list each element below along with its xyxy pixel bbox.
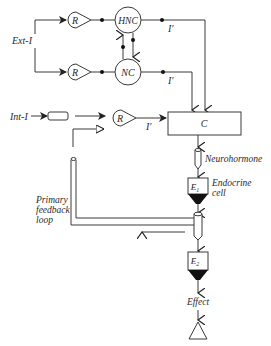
endocrine-label-1: Endocrine (211, 178, 252, 188)
feedback-pipe-end (71, 158, 76, 161)
nc-label: NC (120, 67, 135, 78)
i-prime-bottom-label: I′ (167, 75, 174, 86)
receptor-bottom-label: R (71, 67, 78, 78)
endocrine-label-2: cell (212, 188, 226, 198)
effect-triangle-icon (189, 322, 207, 339)
int-input-label: Int-I (9, 111, 28, 122)
feedback-label-1: Primary (35, 195, 68, 205)
int-input-cylinder (48, 112, 68, 120)
synapse-dot (100, 18, 104, 22)
nc-node: NC (115, 59, 141, 85)
cylinder-top (195, 149, 201, 152)
ext-input-label: Ext-I (11, 35, 33, 46)
effect-label: Effect (186, 297, 210, 307)
neurohormone-label: Neurohormone (204, 154, 262, 164)
junction-top (194, 212, 202, 216)
synapse-dot (160, 18, 164, 22)
feedback-label-3: loop (36, 215, 53, 225)
feedback-to-receptor-arrow (73, 129, 104, 147)
feedback-label-2: feedback (36, 205, 71, 215)
diagram-canvas: Ext-I R HNC I′ R NC I′ Int-I R (0, 0, 271, 346)
synapse-dot (100, 70, 104, 74)
synapse-dot (121, 45, 125, 49)
receptor-bottom: R (68, 64, 91, 80)
hnc-label: HNC (117, 16, 138, 26)
e2-target-cell: E2 (188, 252, 208, 280)
primary-feedback-loop (71, 129, 202, 240)
synapse-dot (161, 70, 165, 74)
receptor-internal-label: R (116, 113, 123, 124)
center-label: C (201, 118, 208, 129)
ext-input-top-arrow (35, 20, 66, 34)
e1-endocrine-cell: E1 (188, 178, 208, 204)
feedback-pipe-inner (76, 160, 194, 218)
nc-output-line (141, 72, 192, 110)
neurohormone-cylinder (195, 150, 201, 169)
ext-input-group: Ext-I (11, 20, 66, 72)
center-node: C (168, 112, 241, 135)
i-prime-top-label: I′ (167, 23, 174, 34)
receptor-top-label: R (71, 15, 78, 26)
receptor-internal: R (113, 110, 136, 126)
e2-funnel (188, 270, 208, 280)
ext-input-bottom-arrow (35, 48, 66, 72)
feedback-pipe-outer (71, 160, 194, 225)
feedback-junction-cylinder (194, 214, 202, 240)
receptor-top: R (68, 12, 91, 28)
hnc-node: HNC (115, 7, 141, 33)
synapse-dot (131, 38, 135, 42)
e1-funnel (188, 194, 208, 204)
i-prime-internal-label: I′ (145, 121, 152, 132)
